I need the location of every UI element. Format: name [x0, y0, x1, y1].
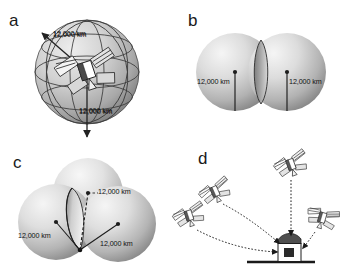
panel-b-letter: b: [188, 12, 197, 29]
panel-a-graphic: 12,000 km 12,000 km: [0, 0, 175, 140]
panel-a-label-2: 12,000 km: [79, 107, 112, 114]
panel-a: a: [0, 0, 175, 140]
panel-c-label-3: 12,000 km: [100, 240, 133, 247]
panel-c-label-2: 12,000 km: [18, 232, 51, 239]
panel-c-letter: c: [13, 154, 22, 171]
panel-a-letter: a: [9, 12, 18, 29]
panel-c: c: [0, 140, 175, 277]
panel-c-graphic: [0, 140, 175, 277]
gps-trilateration-figure: a: [0, 0, 340, 277]
satellite-icon-top: [271, 148, 311, 181]
panel-b-label-2: 12,000 km: [289, 78, 322, 85]
signal-arrow-upper-left: [223, 204, 279, 243]
panel-c-label-1: 12,000 km: [98, 188, 131, 195]
panel-b: b: [175, 0, 340, 140]
panel-b-label-1: 12,000 km: [197, 78, 230, 85]
panel-d: d: [175, 140, 340, 277]
panel-d-letter: d: [198, 150, 207, 167]
satellite-icon-far-left: [170, 200, 208, 230]
ground-receiver-icon: [278, 233, 301, 261]
panel-b-graphic: [175, 0, 340, 140]
signal-arrow-right: [303, 232, 315, 248]
intersection-lens: [254, 40, 268, 104]
satellite-icon-right: [304, 203, 340, 233]
panel-a-label-1: 12,000 km: [53, 30, 86, 37]
signal-arrow-far-left: [197, 230, 277, 252]
